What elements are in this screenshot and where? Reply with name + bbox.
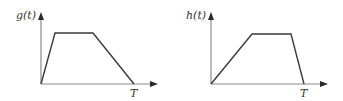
ylabel-h: h(t) bbox=[186, 9, 206, 22]
panel-g: g(t) T bbox=[16, 9, 158, 100]
curve-h bbox=[211, 34, 304, 84]
curve-g bbox=[41, 33, 134, 84]
ylabel-g: g(t) bbox=[16, 9, 36, 22]
x-axis-arrow-icon bbox=[320, 81, 328, 87]
panel-h: h(t) T bbox=[186, 9, 328, 100]
y-axis-arrow-icon bbox=[208, 12, 214, 20]
diagram-canvas: g(t) T h(t) T bbox=[0, 0, 343, 101]
xlabel-h: T bbox=[300, 87, 309, 100]
xlabel-g: T bbox=[130, 87, 139, 100]
x-axis-arrow-icon bbox=[150, 81, 158, 87]
y-axis-arrow-icon bbox=[38, 12, 44, 20]
